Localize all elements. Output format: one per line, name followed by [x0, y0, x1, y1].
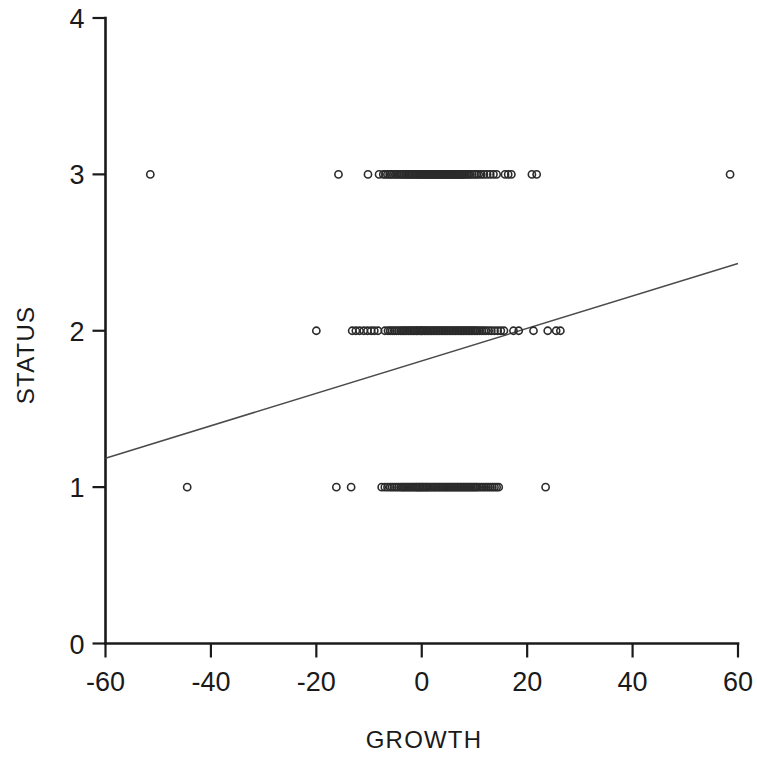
scatter-point	[335, 171, 342, 178]
x-tick-label: 60	[723, 667, 753, 697]
scatter-plot-figure: 01234 -60-40-200204060 GROWTH STATUS	[0, 0, 757, 761]
scatter-point	[184, 484, 191, 491]
plot-canvas: 01234 -60-40-200204060 GROWTH STATUS	[0, 0, 757, 761]
x-tick-label: -20	[297, 667, 336, 697]
x-tick-label: 40	[618, 667, 648, 697]
scatter-point	[333, 484, 340, 491]
scatter-point	[313, 327, 320, 334]
scatter-point	[147, 171, 154, 178]
scatter-point	[544, 327, 551, 334]
y-tick-label: 4	[69, 4, 84, 34]
regression-line	[106, 264, 739, 459]
x-tick-label: 0	[414, 667, 429, 697]
x-axis-title: GROWTH	[366, 726, 483, 753]
scatter-point	[364, 171, 371, 178]
scatter-point	[533, 171, 540, 178]
x-tick-label: -60	[86, 667, 125, 697]
y-axis-tick-labels: 01234	[69, 4, 84, 660]
scatter-point	[348, 484, 355, 491]
scatter-series	[184, 484, 550, 491]
y-tick-label: 3	[69, 160, 84, 190]
x-axis-tick-labels: -60-40-200204060	[86, 667, 753, 697]
scatter-series	[147, 171, 734, 178]
scatter-point	[542, 484, 549, 491]
y-tick-label: 2	[69, 317, 84, 347]
y-axis-title: STATUS	[12, 306, 39, 404]
regression-line-path	[106, 264, 739, 459]
scatter-points	[147, 171, 734, 491]
x-tick-label: -40	[191, 667, 230, 697]
y-tick-label: 1	[69, 473, 84, 503]
scatter-point	[726, 171, 733, 178]
x-tick-label: 20	[512, 667, 542, 697]
y-axis-ticks	[93, 18, 106, 644]
scatter-point	[530, 327, 537, 334]
x-axis-ticks	[106, 644, 739, 658]
y-tick-label: 0	[69, 630, 84, 660]
